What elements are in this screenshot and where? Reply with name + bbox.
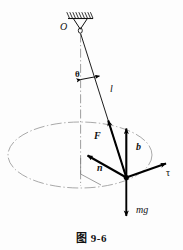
circular-path-ellipse [8,122,152,188]
label-string-length: l [110,84,113,94]
pendulum-bob [124,175,129,180]
label-vector-mg: mg [136,205,148,215]
label-vector-b: b [136,142,141,152]
physics-diagram-canvas [0,0,183,250]
label-pivot-O: O [60,22,67,32]
vector-tau-tangent [126,164,166,178]
label-vector-tau: τ [166,168,170,178]
figure-caption: 图 9-6 [0,229,183,245]
label-vector-F: F [94,131,101,141]
label-angle-theta: θ [75,70,80,79]
hatched-ceiling [67,12,93,18]
angle-theta-arc [81,76,100,80]
pivot-hook [74,19,88,33]
label-vector-n: n [97,163,103,173]
figure-container: O θ l F b n τ mg 图 9-6 [0,0,183,250]
